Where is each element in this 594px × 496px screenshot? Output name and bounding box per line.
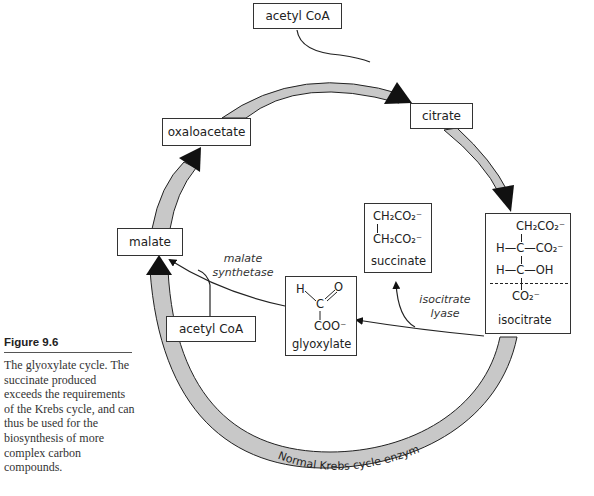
cleavage-dashed-line [490,283,568,284]
node-acetyl-coa-top: acetyl CoA [253,3,342,29]
isocitrate-label: isocitrate [498,313,552,327]
node-succinate: CH₂CO₂⁻ CH₂CO₂⁻ succinate [364,203,432,273]
enzyme-malate-synthetase: malate synthetase [208,252,278,280]
enzyme-label-line: isocitrate [410,293,480,307]
node-label: citrate [422,109,461,123]
node-label: acetyl CoA [179,322,243,336]
succinate-formula-line2: CH₂CO₂⁻ [373,232,422,246]
node-malate: malate [117,228,183,256]
connector-acetylcoa-top [297,30,370,62]
figure-caption: Figure 9.6 The glyoxylate cycle. The suc… [4,336,136,475]
succinate-label: succinate [371,254,426,268]
enzyme-label-line: malate [208,252,278,266]
enzyme-label-line: synthetase [208,266,278,280]
node-label: malate [129,235,171,249]
enzyme-isocitrate-lyase: isocitrate lyase [410,293,480,321]
caption-text: The glyoxylate cycle. The succinate prod… [4,358,136,475]
isocitrate-row4: CO₂⁻ [512,289,540,303]
glyoxylate-coo: COO⁻ [314,319,346,333]
arc-malate-to-oxaloacetate [152,147,201,229]
isocitrate-row1: CH₂CO₂⁻ [516,219,565,233]
node-label: oxaloacetate [168,125,246,139]
arc-citrate-to-isocitrate [444,128,514,212]
arrow-head-icon [146,255,172,275]
isocitrate-row3: H—C—OH [496,263,553,277]
node-citrate: citrate [410,103,473,129]
node-isocitrate: CH₂CO₂⁻ H—C—CO₂⁻ H—C—OH CO₂⁻ isocitrate [485,213,571,334]
arrow-isocitrate-to-glyoxylate [357,320,484,336]
isocitrate-row2: H—C—CO₂⁻ [496,241,563,255]
arrow-head-icon [492,185,514,212]
node-oxaloacetate: oxaloacetate [162,118,251,146]
enzyme-label-line: lyase [410,307,480,321]
figure-label: Figure 9.6 [4,336,132,353]
node-acetyl-coa-bottom: acetyl CoA [166,316,256,342]
node-glyoxylate: H C O COO⁻ glyoxylate [285,276,357,356]
succinate-formula-line1: CH₂CO₂⁻ [373,209,422,223]
glyoxylate-label: glyoxylate [292,337,351,351]
node-label: acetyl CoA [265,9,329,23]
arc-oxaloacetate-to-citrate [222,82,412,118]
